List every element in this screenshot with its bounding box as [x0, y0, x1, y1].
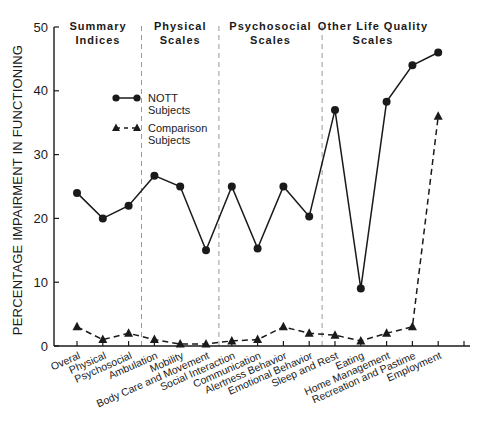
y-axis-ticks: 01020304050 — [34, 20, 59, 354]
triangle-marker — [279, 322, 288, 331]
group-header-line2: Scales — [250, 34, 291, 46]
data-series — [73, 49, 443, 348]
series-nott-subjects — [73, 49, 442, 293]
group-header-line2: Indices — [76, 34, 121, 46]
triangle-marker — [73, 322, 82, 331]
legend-label-line1: NOTT — [148, 92, 178, 104]
y-axis-title: PERCENTAGE IMPAIRMENT IN FUNCTIONING — [10, 45, 25, 335]
y-tick-label: 10 — [34, 275, 48, 290]
group-header-line2: Scales — [353, 34, 394, 46]
legend-circle-icon — [133, 94, 140, 101]
legend-item: ComparisonSubjects — [112, 122, 207, 146]
circle-marker — [383, 98, 391, 106]
series-comparison-subjects — [73, 111, 443, 347]
circle-marker — [331, 106, 339, 114]
circle-marker — [125, 202, 133, 210]
group-header-line1: Other Life Quality — [318, 20, 428, 32]
y-tick-label: 30 — [34, 147, 48, 162]
series-line — [77, 53, 438, 289]
group-header-line1: Summary — [69, 20, 126, 32]
circle-marker — [150, 172, 158, 180]
group-header-line1: Physical — [154, 20, 207, 32]
circle-marker — [408, 61, 416, 69]
circle-marker — [279, 183, 287, 191]
axes — [54, 27, 470, 346]
y-tick-label: 40 — [34, 83, 48, 98]
legend-label-line2: Subjects — [148, 104, 191, 116]
group-header-line2: Scales — [160, 34, 201, 46]
circle-marker — [228, 183, 236, 191]
legend: NOTTSubjectsComparisonSubjects — [112, 92, 207, 146]
circle-marker — [73, 189, 81, 197]
triangle-marker — [305, 328, 314, 337]
y-tick-label: 20 — [34, 211, 48, 226]
triangle-marker — [408, 322, 417, 331]
x-axis-category-labels: OveralPhysicalPsychosocialAmbulationMobi… — [49, 349, 443, 410]
legend-label-line2: Subjects — [148, 134, 191, 146]
legend-label-line1: Comparison — [148, 122, 207, 134]
group-header-line1: Psychosocial — [229, 20, 311, 32]
triangle-marker — [434, 111, 443, 120]
circle-marker — [357, 285, 365, 293]
group-headers: SummaryIndicesPhysicalScalesPsychosocial… — [69, 20, 428, 46]
legend-circle-icon — [112, 94, 119, 101]
circle-marker — [202, 246, 210, 254]
circle-marker — [176, 183, 184, 191]
y-tick-label: 0 — [41, 339, 48, 354]
circle-marker — [434, 49, 442, 57]
circle-marker — [254, 244, 262, 252]
x-axis-ticks — [77, 341, 464, 346]
circle-marker — [99, 214, 107, 222]
line-chart: 01020304050 OveralPhysicalPsychosocialAm… — [0, 0, 477, 431]
y-tick-label: 50 — [34, 20, 48, 35]
triangle-marker — [124, 328, 133, 337]
circle-marker — [305, 212, 313, 220]
triangle-marker — [150, 335, 159, 344]
triangle-marker — [253, 335, 262, 344]
series-line — [77, 116, 438, 344]
legend-item: NOTTSubjects — [112, 92, 190, 116]
